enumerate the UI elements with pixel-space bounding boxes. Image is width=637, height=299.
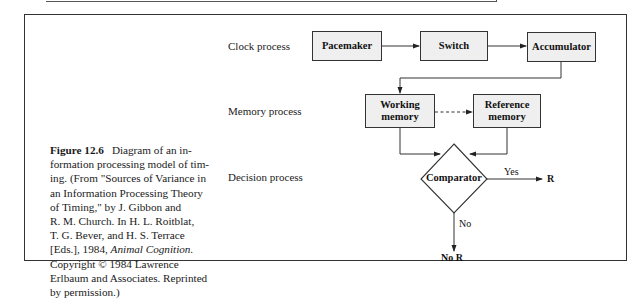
accumulator-label: Accumulator xyxy=(532,41,591,53)
pacemaker-box: Pacemaker xyxy=(312,31,382,61)
working-memory-box: Working memory xyxy=(365,94,435,128)
reference-memory-label-line1: Reference xyxy=(485,99,530,110)
reference-memory-label-line2: memory xyxy=(488,111,525,122)
reference-memory-box: Reference memory xyxy=(473,94,541,128)
yes-label: Yes xyxy=(504,166,519,177)
working-memory-label-line1: Working xyxy=(380,99,420,110)
no-r-label: No R xyxy=(441,252,463,263)
comparator-label: Comparator xyxy=(421,172,487,183)
working-memory-label-line2: memory xyxy=(381,111,418,122)
switch-label: Switch xyxy=(439,40,469,52)
pacemaker-label: Pacemaker xyxy=(322,40,372,52)
caption-line: by permission.) xyxy=(50,286,120,298)
accumulator-box: Accumulator xyxy=(527,32,596,62)
switch-box: Switch xyxy=(420,31,488,61)
no-label: No xyxy=(459,218,471,229)
r-response-label: R xyxy=(547,173,554,184)
